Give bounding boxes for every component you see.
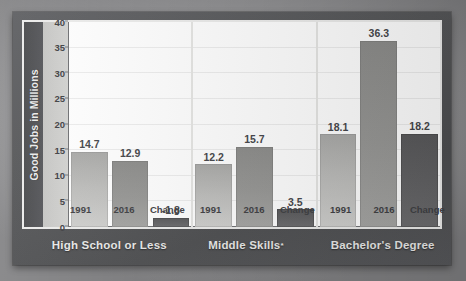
bar-slot: 15.7 (236, 22, 273, 227)
bar-slot: 3.5 (277, 22, 314, 227)
bar-change[interactable]: -1.8 (153, 218, 190, 227)
bar-slot: 12.9 (112, 22, 149, 227)
bar-2016[interactable]: 36.3 (360, 41, 397, 227)
bar-groups: 14.712.9-1.812.215.73.518.136.318.2 (69, 22, 440, 227)
bar-value-label: 15.7 (244, 134, 264, 145)
category-label: High School or Less (41, 234, 178, 258)
y-axis-title-label: Good Jobs in Millions (28, 69, 40, 180)
category-label: Middle Skills* (178, 234, 315, 258)
bar-value-label: 18.2 (409, 121, 429, 132)
axis-and-plot-wrapper: 4035302520151050 14.712.9-1.812.215.73.5… (43, 22, 440, 227)
bar-value-label: 18.1 (328, 122, 348, 133)
bar-value-label: -1.8 (162, 205, 180, 216)
category-label-text: Bachelor's Degree (331, 240, 435, 252)
y-axis-tick: 40 (54, 17, 65, 27)
bar-group: 14.712.9-1.8 (69, 22, 193, 227)
y-axis-tick-labels: 4035302520151050 (43, 22, 68, 227)
bar-slot: 36.3 (360, 22, 397, 227)
category-label-text: High School or Less (52, 240, 167, 252)
bar-value-label: 12.2 (203, 152, 223, 163)
y-axis-tick: 5 (60, 197, 65, 207)
bar-change[interactable]: 18.2 (401, 134, 438, 227)
bar-1991[interactable]: 14.7 (71, 152, 108, 227)
bar-2016[interactable]: 15.7 (236, 147, 273, 227)
y-axis-tick: 0 (60, 222, 65, 232)
chart-plot-frame: Good Jobs in Millions 4035302520151050 1… (22, 20, 442, 229)
bar-slot: 18.1 (320, 22, 357, 227)
y-axis-tick: 20 (54, 120, 65, 130)
bar-value-label: 36.3 (369, 28, 389, 39)
y-axis-tick: 35 (54, 43, 65, 53)
y-axis-tick: 10 (54, 171, 65, 181)
y-axis-tick: 15 (54, 145, 65, 155)
chart-card-panel: Good Jobs in Millions 4035302520151050 1… (13, 12, 451, 265)
category-axis-labels: High School or LessMiddle Skills*Bachelo… (41, 234, 451, 258)
y-axis-title: Good Jobs in Millions (24, 22, 43, 227)
plot-area: 14.712.9-1.812.215.73.518.136.318.2 (68, 22, 440, 227)
bar-slot: -1.8 (153, 22, 190, 227)
bar-change[interactable]: 3.5 (277, 209, 314, 227)
bar-1991[interactable]: 12.2 (195, 164, 232, 227)
bar-value-label: 3.5 (288, 197, 303, 208)
bar-group: 18.136.318.2 (318, 22, 440, 227)
category-label: Bachelor's Degree (314, 234, 451, 258)
bar-2016[interactable]: 12.9 (112, 161, 149, 227)
bar-slot: 12.2 (195, 22, 232, 227)
category-label-text: Middle Skills (208, 240, 280, 252)
bar-slot: 14.7 (71, 22, 108, 227)
y-axis-tick: 30 (54, 69, 65, 79)
bar-value-label: 14.7 (79, 139, 99, 150)
bar-value-label: 12.9 (120, 148, 140, 159)
y-axis-tick: 25 (54, 94, 65, 104)
bar-slot: 18.2 (401, 22, 438, 227)
bar-1991[interactable]: 18.1 (320, 134, 357, 227)
bar-group: 12.215.73.5 (193, 22, 317, 227)
